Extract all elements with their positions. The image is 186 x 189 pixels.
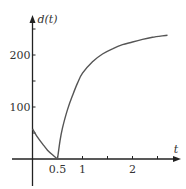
ticks	[33, 29, 158, 159]
x-tick-label: 2	[129, 163, 136, 176]
x-tick-label: 1	[79, 163, 86, 176]
y-tick-label: 200	[10, 49, 31, 62]
x-axis-arrow-icon	[173, 156, 181, 162]
y-axis-arrow-icon	[30, 15, 36, 23]
chart: 0.512100200td(t)	[0, 0, 186, 189]
data-curve	[33, 35, 168, 159]
y-axis-label: d(t)	[38, 13, 58, 26]
x-axis-label: t	[174, 143, 179, 156]
axes	[12, 15, 181, 186]
x-tick-label: 0.5	[49, 163, 67, 176]
y-tick-label: 100	[10, 101, 31, 114]
